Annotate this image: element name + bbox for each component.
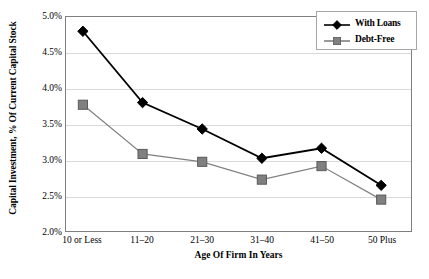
- line-chart: Capital Investment, % Of Current Capital…: [0, 0, 429, 279]
- y-axis-tick-label: 3.0%: [22, 155, 62, 165]
- series-line-debt-free: [83, 105, 381, 200]
- legend: With Loans Debt-Free: [316, 11, 417, 50]
- square-marker-icon: [322, 33, 352, 45]
- y-axis-tick-label: 4.5%: [22, 47, 62, 57]
- series-line-with-loans: [83, 31, 381, 185]
- y-axis-tick-label: 4.0%: [22, 83, 62, 93]
- data-point-marker[interactable]: [257, 153, 267, 163]
- x-axis-tick-label: 50 Plus: [368, 234, 396, 246]
- data-point-marker[interactable]: [376, 180, 386, 190]
- legend-item-debt-free[interactable]: Debt-Free: [317, 31, 416, 47]
- x-axis-tick-labels: 10 or Less11–2021–3031–4041–5050 Plus: [65, 234, 412, 250]
- data-point-marker[interactable]: [78, 100, 87, 109]
- y-axis-tick-labels: 5.0%4.5%4.0%3.5%3.0%2.5%2.0%: [18, 0, 62, 279]
- y-axis-tick-label: 2.0%: [22, 227, 62, 237]
- data-point-marker[interactable]: [138, 149, 147, 158]
- data-point-marker[interactable]: [317, 162, 326, 171]
- y-axis-tick-label: 2.5%: [22, 191, 62, 201]
- data-point-marker[interactable]: [197, 124, 207, 134]
- y-axis-title: Capital Investment, % Of Current Capital…: [8, 6, 18, 231]
- data-point-marker[interactable]: [257, 175, 266, 184]
- x-axis-tick-label: 21–30: [190, 234, 214, 246]
- data-point-marker[interactable]: [198, 157, 207, 166]
- x-axis-tick-label: 41–50: [310, 234, 334, 246]
- x-axis-tick-label: 10 or Less: [62, 234, 102, 246]
- legend-label-debt-free: Debt-Free: [352, 34, 394, 44]
- data-point-marker[interactable]: [316, 143, 326, 153]
- y-axis-tick-label: 3.5%: [22, 119, 62, 129]
- x-axis-title: Age Of Firm In Years: [65, 250, 412, 260]
- diamond-marker-icon: [322, 17, 352, 29]
- legend-item-with-loans[interactable]: With Loans: [317, 15, 416, 31]
- x-axis-tick-label: 11–20: [130, 234, 153, 246]
- y-axis-tick-label: 5.0%: [22, 11, 62, 21]
- x-axis-tick-label: 31–40: [250, 234, 274, 246]
- legend-label-with-loans: With Loans: [352, 18, 401, 28]
- data-point-marker[interactable]: [377, 195, 386, 204]
